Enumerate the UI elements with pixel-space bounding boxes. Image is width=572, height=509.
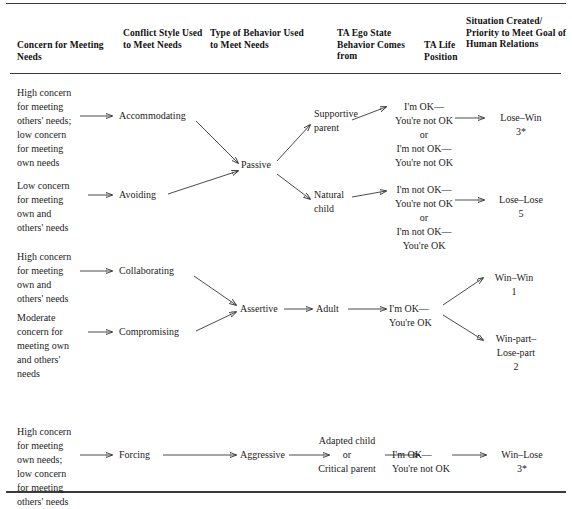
- behavior-node-passive: Passive: [241, 158, 285, 172]
- situation-win-lose: Win–Lose 3*: [488, 448, 556, 476]
- life-position-im-ok-youre-not-ok: I'm OK— You're not OK: [392, 448, 462, 476]
- behavior-node-assertive: Assertive: [240, 302, 288, 316]
- life-position-im-ok-youre-ok: I'm OK— You're OK: [389, 302, 455, 330]
- concern-text-collaborating: High concern for meeting own and others'…: [17, 250, 89, 306]
- situation-lose-lose: Lose–Lose 5: [487, 193, 555, 221]
- concern-text-compromising: Moderate concern for meeting own and oth…: [17, 311, 93, 381]
- conflict-style-collaborating: Collaborating: [119, 264, 199, 278]
- situation-win-win: Win–Win 1: [478, 271, 550, 299]
- conflict-style-forcing: Forcing: [119, 448, 167, 462]
- life-position-lose-lose: I'm not OK— You're not OK or I'm not OK—…: [389, 183, 459, 253]
- concern-text-avoiding: Low concern for meeting own and others' …: [17, 179, 89, 235]
- ego-state-adult: Adult: [316, 302, 352, 316]
- ego-state-natural-child: Natural child: [314, 188, 368, 216]
- concern-text-forcing: High concern for meeting own needs; low …: [17, 425, 89, 509]
- life-position-lose-win: I'm OK— You're not OK or I'm not OK— You…: [389, 100, 459, 170]
- concern-text-accommodating: High concern for meeting others' needs; …: [17, 86, 89, 170]
- situation-win-part-lose-part: Win-part– Lose-part 2: [478, 332, 554, 374]
- ego-state-adapted-child-critical-parent: Adapted child or Critical parent: [307, 434, 387, 476]
- situation-lose-win: Lose–Win 3*: [487, 111, 555, 139]
- conflict-style-avoiding: Avoiding: [119, 188, 179, 202]
- behavior-node-aggressive: Aggressive: [240, 448, 296, 462]
- conflict-style-compromising: Compromising: [119, 325, 203, 339]
- ego-state-supportive-parent: Supportive parent: [314, 107, 376, 135]
- conflict-style-accommodating: Accommodating: [119, 109, 199, 123]
